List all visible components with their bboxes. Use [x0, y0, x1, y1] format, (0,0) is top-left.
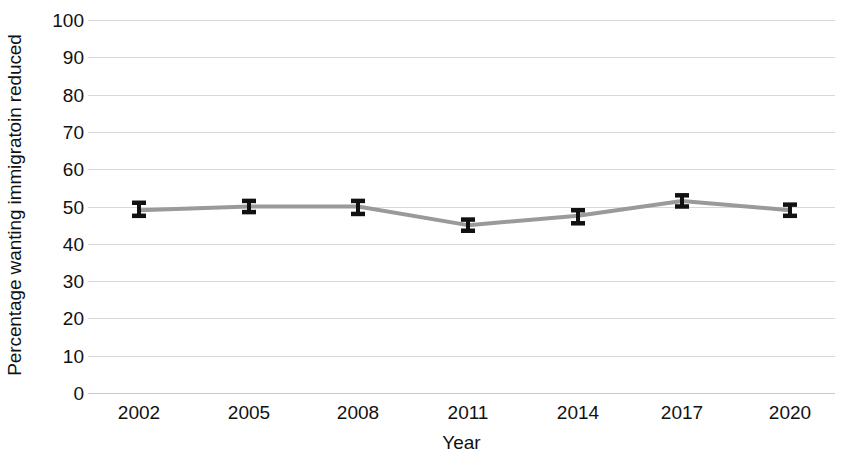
y-tick-label-20: 20 [30, 309, 84, 328]
x-tick-label-2008: 2008 [337, 403, 379, 422]
x-tick-label-2002: 2002 [118, 403, 160, 422]
y-tick-label-10: 10 [30, 346, 84, 365]
y-tick-label-50: 50 [30, 197, 84, 216]
y-axis-tick-labels: 1009080706050403020100 [30, 0, 84, 420]
x-axis-title: Year [88, 432, 835, 454]
plot-area [88, 20, 835, 393]
y-axis-title: Percentage wanting immigratoin reduced [0, 0, 30, 410]
x-tick-label-2005: 2005 [228, 403, 270, 422]
gridline-0 [88, 393, 835, 394]
x-tick-label-2011: 2011 [448, 403, 489, 422]
x-axis-tick-labels: 2002200520082011201420172020 [88, 403, 835, 431]
y-tick-label-70: 70 [30, 122, 84, 141]
chart-figure: Percentage wanting immigratoin reduced 1… [0, 0, 842, 455]
y-tick-label-100: 100 [30, 11, 84, 30]
y-tick-label-80: 80 [30, 85, 84, 104]
x-tick-label-2020: 2020 [769, 403, 811, 422]
y-tick-label-60: 60 [30, 160, 84, 179]
x-tick-label-2014: 2014 [557, 403, 599, 422]
data-series-svg [88, 20, 835, 393]
x-tick-label-2017: 2017 [661, 403, 703, 422]
y-tick-label-30: 30 [30, 272, 84, 291]
y-tick-label-0: 0 [30, 384, 84, 403]
y-tick-label-90: 90 [30, 48, 84, 67]
y-tick-label-40: 40 [30, 234, 84, 253]
